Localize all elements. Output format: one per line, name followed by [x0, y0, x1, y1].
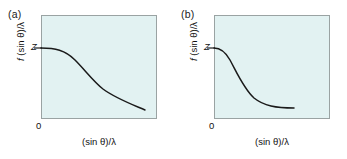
y-axis-label-symbol-b: f	[188, 58, 199, 61]
panel-b: (b) Z f (sin θ)/λ 0 (sin θ)/λ	[173, 0, 346, 159]
x-origin-label-b: 0	[209, 120, 214, 131]
y-axis-label-a: f (sin θ)/λ	[15, 6, 26, 78]
figure-container: (a) Z f (sin θ)/λ 0 (sin θ)/λ (b) Z f (s…	[0, 0, 347, 159]
x-axis-label-body-a: (sin θ)/λ	[82, 136, 116, 147]
x-axis-label-a: (sin θ)/λ	[41, 136, 157, 147]
scattering-curve-a	[41, 48, 145, 110]
y-axis-label-body-b: (sin θ)/λ	[188, 22, 199, 58]
scattering-curve-b	[214, 48, 294, 108]
plot-curve-svg-a	[41, 15, 157, 119]
panel-a: (a) Z f (sin θ)/λ 0 (sin θ)/λ	[0, 0, 173, 159]
y-axis-label-b: f (sin θ)/λ	[188, 6, 199, 78]
plot-curve-svg-b	[214, 15, 330, 119]
x-origin-label-a: 0	[36, 120, 41, 131]
y-tick-label-z-b: Z	[204, 41, 210, 52]
y-axis-label-body-a: (sin θ)/λ	[15, 22, 26, 58]
y-axis-label-symbol-a: f	[15, 58, 26, 61]
x-axis-label-body-b: (sin θ)/λ	[255, 136, 289, 147]
x-axis-label-b: (sin θ)/λ	[214, 136, 330, 147]
y-tick-label-z-a: Z	[31, 41, 37, 52]
